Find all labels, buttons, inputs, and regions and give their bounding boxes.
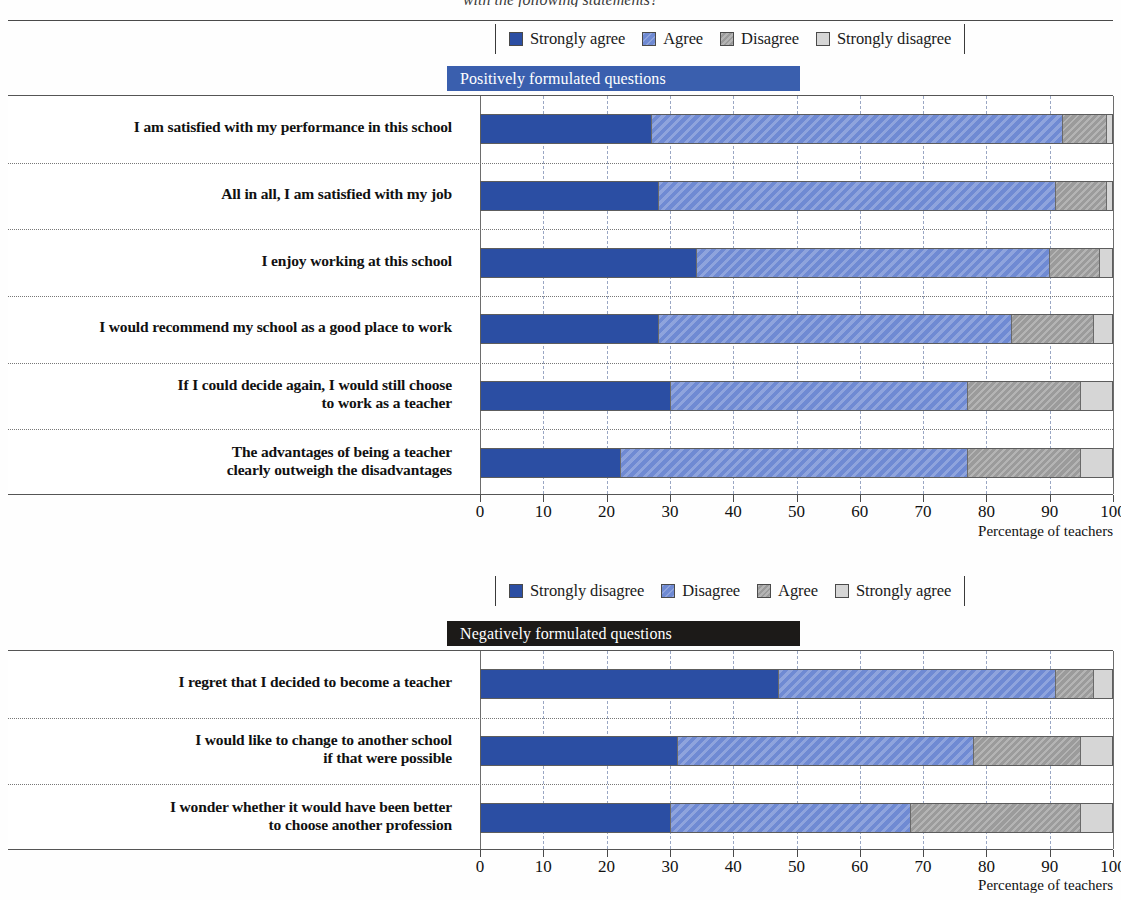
legend-item[interactable]: Disagree (720, 29, 799, 49)
gridline (1050, 96, 1051, 494)
stacked-bar[interactable] (480, 736, 1113, 766)
stacked-bar[interactable] (480, 114, 1113, 144)
bar-segment (1080, 449, 1112, 477)
bar-segment (481, 115, 651, 143)
axis-tick-label: 0 (476, 857, 485, 877)
bar-segment (481, 449, 620, 477)
bar-segment (481, 804, 670, 832)
category-label: I would recommend my school as a good pl… (0, 318, 464, 336)
bar-segment (1055, 670, 1093, 698)
axis-tick (607, 850, 608, 857)
bar-segment (1080, 804, 1112, 832)
gridline (670, 96, 671, 494)
axis-tick-label: 10 (535, 502, 552, 522)
axis-tick-label: 10 (535, 857, 552, 877)
clipped-page-title: with the following statements? (0, 0, 1121, 7)
bar-segment (1099, 249, 1112, 277)
category-label: I am satisfied with my performance in th… (0, 118, 464, 136)
axis-tick-label: 40 (725, 857, 742, 877)
axis-tick-label: 20 (598, 857, 615, 877)
stacked-bar[interactable] (480, 248, 1113, 278)
axis-tick-label: 90 (1041, 857, 1058, 877)
axis-tick (923, 850, 924, 857)
bar-segment (1093, 670, 1112, 698)
axis-tick (797, 495, 798, 502)
category-label: If I could decide again, I would still c… (0, 376, 464, 412)
gridline (607, 96, 608, 494)
axis-tick-label: 100 (1100, 502, 1121, 522)
bar-segment (670, 382, 967, 410)
bar-segment (1093, 315, 1112, 343)
stacked-bar[interactable] (480, 448, 1113, 478)
axis-tick (480, 850, 481, 857)
bar-segment (658, 315, 1011, 343)
axis-tick (860, 850, 861, 857)
stacked-bar[interactable] (480, 314, 1113, 344)
legend-label: Disagree (741, 29, 799, 49)
axis-tick-label: 70 (915, 502, 932, 522)
legend-swatch-icon (509, 584, 523, 598)
axis-tick (607, 495, 608, 502)
bar-segment (670, 804, 910, 832)
legend-item[interactable]: Agree (757, 581, 818, 601)
legend-swatch-icon (509, 32, 523, 46)
row-separator (8, 163, 1113, 164)
bar-segment (696, 249, 1049, 277)
gridline (543, 96, 544, 494)
gridline (923, 96, 924, 494)
legend-item[interactable]: Strongly agree (835, 581, 951, 601)
bar-segment (481, 182, 658, 210)
banner-positive: Positively formulated questions (447, 66, 800, 91)
legend-item[interactable]: Strongly disagree (816, 29, 951, 49)
stacked-bar[interactable] (480, 669, 1113, 699)
axis-tick (1050, 495, 1051, 502)
axis-tick-label: 60 (851, 857, 868, 877)
row-separator (8, 784, 1113, 785)
bar-segment (1011, 315, 1093, 343)
axis-tick-label: 80 (978, 502, 995, 522)
axis-tick (797, 850, 798, 857)
stacked-bar[interactable] (480, 803, 1113, 833)
legend-label: Agree (663, 29, 703, 49)
legend-item[interactable]: Strongly agree (509, 29, 625, 49)
gridline (1113, 651, 1114, 849)
legend-label: Strongly agree (856, 581, 951, 601)
legend-swatch-icon (835, 584, 849, 598)
stacked-bar[interactable] (480, 181, 1113, 211)
bar-segment (1080, 382, 1112, 410)
legend-item[interactable]: Disagree (661, 581, 740, 601)
bar-segment (967, 449, 1081, 477)
axis-tick-label: 50 (788, 857, 805, 877)
axis-tick (670, 850, 671, 857)
axis-tick (670, 495, 671, 502)
x-axis-negative: 0102030405060708090100 (8, 850, 1113, 890)
axis-tick-label: 20 (598, 502, 615, 522)
axis-tick-label: 60 (851, 502, 868, 522)
axis-tick-label: 70 (915, 857, 932, 877)
bar-segment (967, 382, 1081, 410)
category-label: All in all, I am satisfied with my job (0, 185, 464, 203)
axis-tick (986, 850, 987, 857)
legend-negative: Strongly disagreeDisagreeAgreeStrongly a… (495, 576, 965, 606)
bar-segment (658, 182, 1056, 210)
legend-positive: Strongly agreeAgreeDisagreeStrongly disa… (495, 24, 965, 54)
bar-segment (677, 737, 974, 765)
axis-tick (860, 495, 861, 502)
bar-segment (910, 804, 1080, 832)
row-separator (8, 296, 1113, 297)
category-label: I wonder whether it would have been bett… (0, 798, 464, 834)
stacked-bar[interactable] (480, 381, 1113, 411)
legend-label: Strongly disagree (530, 581, 644, 601)
axis-tick-label: 0 (476, 502, 485, 522)
gridline (1113, 96, 1114, 494)
axis-tick (733, 495, 734, 502)
legend-item[interactable]: Agree (642, 29, 703, 49)
gridline (986, 96, 987, 494)
legend-item[interactable]: Strongly disagree (509, 581, 644, 601)
gridline (480, 96, 481, 494)
category-label: The advantages of being a teacher clearl… (0, 443, 464, 479)
x-axis-positive: 0102030405060708090100 (8, 495, 1113, 535)
category-label: I would like to change to another school… (0, 731, 464, 767)
legend-label: Agree (778, 581, 818, 601)
legend-label: Strongly agree (530, 29, 625, 49)
